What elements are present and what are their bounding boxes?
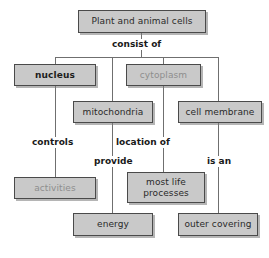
node-nucleus[interactable]: nucleus — [14, 64, 96, 86]
node-plant-and-animal-cells[interactable]: Plant and animal cells — [78, 10, 206, 33]
node-most-life-processes[interactable]: most life processes — [127, 172, 205, 203]
node-cell-membrane[interactable]: cell membrane — [178, 101, 262, 123]
node-activities[interactable]: activities — [14, 177, 96, 199]
edge-label-location-of: location of — [114, 137, 172, 148]
edge-label-is-an: is an — [205, 156, 233, 167]
node-outer-covering[interactable]: outer covering — [178, 213, 258, 236]
edge-label-provide: provide — [92, 156, 135, 167]
node-cytoplasm[interactable]: cytoplasm — [126, 64, 201, 86]
edge-label-consist-of: consist of — [110, 39, 163, 50]
node-energy[interactable]: energy — [73, 213, 153, 236]
edge-label-controls: controls — [30, 137, 75, 148]
node-mitochondria[interactable]: mitochondria — [73, 101, 153, 123]
concept-map-diagram: Plant and animal cells nucleus cytoplasm… — [0, 0, 269, 258]
